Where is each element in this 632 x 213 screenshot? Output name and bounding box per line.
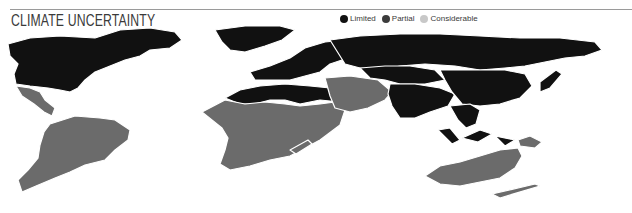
region-australia [425, 148, 522, 186]
region-east-asia [440, 70, 532, 106]
region-greenland [215, 26, 295, 52]
region-north-america [8, 28, 182, 92]
region-new-guinea [518, 136, 542, 148]
world-map [0, 0, 632, 213]
region-south-asia [388, 84, 455, 118]
region-central-america [16, 86, 55, 116]
region-south-america [18, 116, 130, 192]
region-indonesia [438, 128, 515, 146]
region-new-zealand [492, 184, 540, 198]
region-northern-asia [330, 34, 602, 70]
region-middle-east [325, 76, 392, 112]
region-japan [540, 70, 562, 92]
region-southeast-asia [450, 104, 480, 128]
region-sub-saharan-africa [202, 100, 345, 170]
